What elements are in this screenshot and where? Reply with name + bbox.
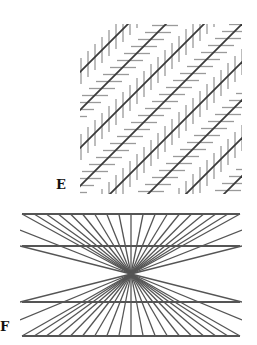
panel-e-zollner-illusion <box>80 24 242 194</box>
panel-e-label: E <box>56 178 66 191</box>
hering-illusion-graphic <box>20 212 242 338</box>
zollner-illusion-graphic <box>80 24 242 194</box>
panel-f-hering-illusion <box>20 212 242 338</box>
panel-f-label: F <box>0 320 9 333</box>
